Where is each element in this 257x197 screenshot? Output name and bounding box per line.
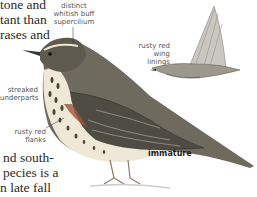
- label-line: flanks: [10, 136, 46, 144]
- label-wing-linings: rusty red wing linings: [130, 42, 170, 66]
- label-immature: immature: [148, 150, 192, 158]
- label-line: distinct: [52, 2, 96, 10]
- label-line: supercilium: [52, 18, 96, 26]
- label-supercilium: distinct whitish buff supercilium: [52, 2, 96, 26]
- label-underparts: streaked underparts: [0, 86, 38, 102]
- label-line: underparts: [0, 94, 38, 102]
- label-line: rusty red: [10, 128, 46, 136]
- label-line: rusty red: [130, 42, 170, 50]
- label-flanks: rusty red flanks: [10, 128, 46, 144]
- label-line: whitish buff: [52, 10, 96, 18]
- label-line: streaked: [0, 86, 38, 94]
- label-line: wing linings: [130, 50, 170, 66]
